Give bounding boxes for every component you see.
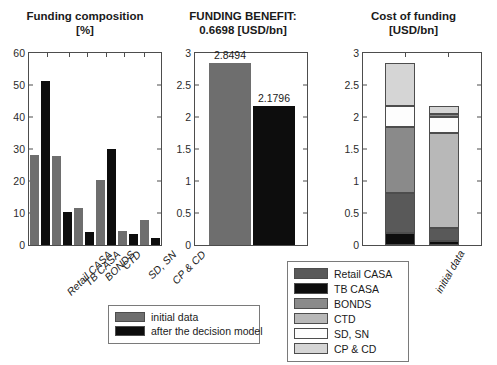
y-tick-mark <box>195 181 199 182</box>
x-tick-mark <box>448 53 449 57</box>
y-tick-mark <box>477 213 481 214</box>
x-tick-mark <box>144 53 145 57</box>
y-tick-label: 0.5 <box>176 207 191 219</box>
y-tick-label: 50 <box>13 79 25 91</box>
legend-color-swatch <box>294 268 328 279</box>
bar-after-the-decision-model-bonds <box>85 232 95 245</box>
legend-color-swatch <box>294 313 328 324</box>
legend-category-item[interactable]: CTD <box>294 311 402 326</box>
bar-initial-data-cp-cd <box>140 220 150 245</box>
y-tick-mark <box>157 85 161 86</box>
legend-color-swatch <box>115 312 145 322</box>
legend-item-label: initial data <box>151 311 198 323</box>
y-tick-mark <box>157 213 161 214</box>
plot-area-funding-composition: 0102030405060 <box>28 52 162 246</box>
y-tick-label: 60 <box>13 47 25 59</box>
plot-area-funding-benefit: 00.511.522.532.84942.1796 <box>194 52 308 246</box>
legend-series: initial dataafter the decision model <box>108 305 260 344</box>
legend-color-swatch <box>294 298 328 309</box>
legend-item-label: CTD <box>334 313 356 325</box>
y-tick-mark <box>477 181 481 182</box>
y-tick-mark <box>29 85 33 86</box>
y-tick-mark <box>195 85 199 86</box>
legend-color-swatch <box>294 328 328 339</box>
legend-category-item[interactable]: SD, SN <box>294 326 402 341</box>
legend-series-item[interactable]: after the decision model <box>115 324 253 338</box>
bar-initial-data-retail-casa <box>30 155 40 245</box>
bar-value-label: 2.8494 <box>214 49 246 61</box>
y-tick-label: 3 <box>185 47 191 59</box>
bar-after-the-decision-model-tb-casa <box>63 212 73 245</box>
stack-segment-ctd <box>429 133 459 228</box>
y-tick-label: 1 <box>185 175 191 187</box>
y-tick-mark <box>363 149 367 150</box>
y-tick-label: 0 <box>19 239 25 251</box>
x-tick-mark <box>69 53 70 57</box>
panel-funding-benefit: FUNDING BENEFIT: 0.6698 [USD/bn] 00.511.… <box>168 4 318 304</box>
y-tick-mark <box>477 85 481 86</box>
y-tick-label: 1.5 <box>344 143 359 155</box>
legend-category-item[interactable]: CP & CD <box>294 341 402 356</box>
y-tick-label: 1.5 <box>176 143 191 155</box>
legend-color-swatch <box>294 343 328 354</box>
stack-segment-cp-cd <box>429 106 459 115</box>
stack-segment-tb-casa <box>385 233 415 245</box>
x-tick-mark <box>124 53 125 57</box>
y-tick-label: 0 <box>185 239 191 251</box>
y-tick-mark <box>303 85 307 86</box>
stack-segment-cp-cd <box>385 63 415 107</box>
legend-item-label: Retail CASA <box>334 268 392 280</box>
bar-initial-data-sd-sn <box>118 231 128 245</box>
x-tick-mark <box>405 53 406 57</box>
legend-category-item[interactable]: Retail CASA <box>294 266 402 281</box>
bar-initial-data <box>209 63 251 245</box>
bar-after-the-decision-model-cp-cd <box>151 238 161 245</box>
legend-item-label: CP & CD <box>334 343 376 355</box>
y-tick-label: 0.5 <box>344 207 359 219</box>
y-tick-mark <box>303 181 307 182</box>
y-tick-mark <box>363 213 367 214</box>
y-tick-label: 2.5 <box>344 79 359 91</box>
y-tick-label: 40 <box>13 111 25 123</box>
legend-category-item[interactable]: TB CASA <box>294 281 402 296</box>
legend-item-label: BONDS <box>334 298 371 310</box>
y-tick-label: 2.5 <box>176 79 191 91</box>
y-tick-mark <box>29 117 33 118</box>
y-tick-mark <box>29 149 33 150</box>
legend-series-item[interactable]: initial data <box>115 310 253 324</box>
legend-color-swatch <box>294 283 328 294</box>
bar-after-the-decision-model-sd-sn <box>129 234 139 245</box>
panel-cost-of-funding: Cost of funding [USD/bn] 00.511.522.53 i… <box>330 4 497 304</box>
legend-category-item[interactable]: BONDS <box>294 296 402 311</box>
panel-funding-composition: Funding composition [%] 0102030405060 Re… <box>0 4 170 304</box>
y-tick-mark <box>363 181 367 182</box>
legend-item-label: SD, SN <box>334 328 369 340</box>
stack-segment-bonds <box>385 127 415 193</box>
y-tick-label: 10 <box>13 207 25 219</box>
y-tick-mark <box>157 149 161 150</box>
legend-item-label: after the decision model <box>151 325 262 337</box>
bar-value-label: 2.1796 <box>258 92 290 104</box>
legend-color-swatch <box>115 326 145 336</box>
legend-item-label: TB CASA <box>334 283 379 295</box>
y-tick-mark <box>303 149 307 150</box>
y-tick-mark <box>363 117 367 118</box>
y-tick-label: 2 <box>353 111 359 123</box>
bar-initial-data-tb-casa <box>52 156 62 245</box>
bar-after-the-decision-model-ctd <box>107 149 117 245</box>
y-tick-label: 1 <box>353 175 359 187</box>
y-tick-label: 20 <box>13 175 25 187</box>
y-tick-mark <box>157 117 161 118</box>
bar-after-the-decision-model-retail-casa <box>41 81 51 245</box>
stack-segment-retail-casa <box>385 193 415 233</box>
y-tick-mark <box>303 117 307 118</box>
chart-title-funding-benefit: FUNDING BENEFIT: 0.6698 [USD/bn] <box>168 10 318 37</box>
stack-segment-sd-sn <box>385 106 415 126</box>
plot-area-cost-of-funding: 00.511.522.53 <box>362 52 482 246</box>
y-tick-mark <box>157 181 161 182</box>
x-tick-mark <box>47 53 48 57</box>
x-tick-mark <box>87 53 88 57</box>
chart-title-funding-composition: Funding composition [%] <box>0 10 170 37</box>
stack-segment-tb-casa <box>429 241 459 245</box>
y-tick-mark <box>363 85 367 86</box>
